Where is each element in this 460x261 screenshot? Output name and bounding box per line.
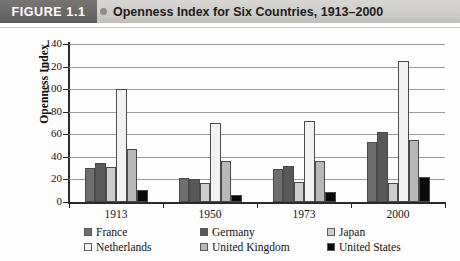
legend-swatch-icon [327,243,335,251]
y-tick-label: 100 [36,82,62,94]
bar [116,89,127,202]
y-tick-label: 0 [36,195,62,207]
bar [137,190,148,202]
bar [189,179,200,202]
y-tick-mark [63,89,68,90]
bar [200,183,211,202]
bar [210,123,221,202]
legend-swatch-icon [200,228,208,236]
bar [231,195,242,202]
x-tick-mark [445,203,446,208]
y-tick-label: 140 [36,37,62,49]
legend-item: United States [327,241,401,253]
chart-legend: FranceGermanyJapanNetherlandsUnited King… [84,226,434,256]
bar [95,163,106,203]
bar [419,177,430,202]
x-tick-label: 2000 [363,208,433,220]
figure-header-band: FIGURE 1.1 Openness Index for Six Countr… [0,0,460,23]
legend-swatch-icon [84,228,92,236]
legend-label: Japan [339,226,365,238]
y-tick-label: 80 [36,105,62,117]
legend-label: Germany [212,226,255,238]
bar [398,61,409,202]
y-tick-mark [63,112,68,113]
y-tick-label: 60 [36,127,62,139]
legend-item: Japan [327,226,365,238]
figure-number-tag: FIGURE 1.1 [0,0,97,23]
bar [325,192,336,202]
bar [273,169,284,202]
x-tick-mark [69,203,70,208]
x-tick-label: 1913 [81,208,151,220]
figure-container: FIGURE 1.1 Openness Index for Six Countr… [0,0,460,261]
x-tick-label: 1950 [175,208,245,220]
x-tick-mark [163,203,164,208]
header-bullet-icon [100,8,107,15]
legend-swatch-icon [327,228,335,236]
x-tick-label: 1973 [269,208,339,220]
x-tick-mark [351,203,352,208]
y-tick-label: 20 [36,172,62,184]
bar [388,183,399,202]
header-divider [0,27,460,28]
bar [304,121,315,202]
bar [283,166,294,202]
legend-item: Netherlands [84,241,152,253]
legend-swatch-icon [84,243,92,251]
y-tick-mark [63,134,68,135]
figure-title: Openness Index for Six Countries, 1913–2… [113,0,383,23]
bar [315,161,326,202]
legend-item: United Kingdom [200,241,290,253]
legend-swatch-icon [200,243,208,251]
y-tick-label: 40 [36,150,62,162]
bar [294,182,305,202]
x-tick-mark [257,203,258,208]
bar [106,167,117,202]
bar [367,142,378,202]
legend-label: United Kingdom [212,241,290,253]
legend-item: Germany [200,226,255,238]
y-tick-label: 120 [36,60,62,72]
bar [377,132,388,202]
bar [221,161,232,202]
y-tick-mark [63,157,68,158]
legend-item: France [84,226,127,238]
y-tick-mark [63,202,68,203]
bar [127,149,138,202]
y-tick-mark [63,179,68,180]
bar [409,140,420,202]
y-tick-mark [63,44,68,45]
legend-label: France [96,226,127,238]
legend-label: Netherlands [96,241,152,253]
bar [179,178,190,202]
y-tick-mark [63,67,68,68]
bar [85,168,96,202]
legend-label: United States [339,241,401,253]
chart-plot-area [69,44,445,202]
